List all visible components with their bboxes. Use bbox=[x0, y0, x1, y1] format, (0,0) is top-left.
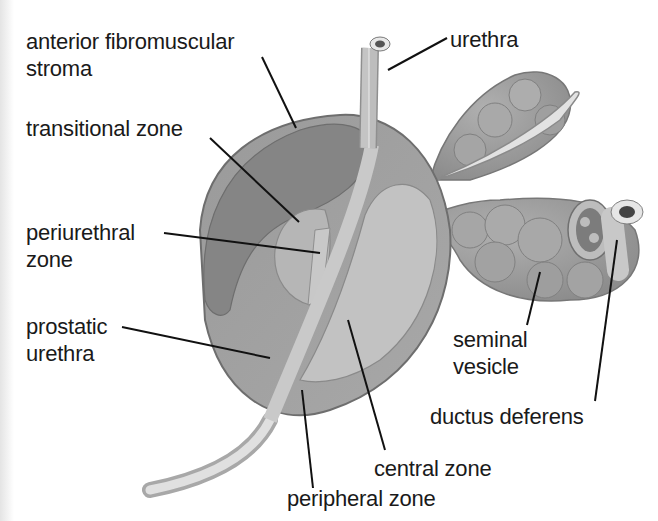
label-line: transitional zone bbox=[26, 115, 183, 142]
label-anterior-fibromuscular-stroma: anterior fibromuscular stroma bbox=[26, 28, 234, 82]
label-line: anterior fibromuscular bbox=[26, 28, 234, 55]
label-seminal-vesicle: seminal vesicle bbox=[453, 326, 527, 380]
label-periurethral-zone: periurethral zone bbox=[26, 219, 135, 273]
label-central-zone: central zone bbox=[374, 455, 491, 482]
prostate-body bbox=[200, 115, 450, 420]
urethra-tail bbox=[150, 420, 270, 490]
label-ductus-deferens: ductus deferens bbox=[430, 403, 584, 430]
label-line: prostatic bbox=[26, 313, 107, 340]
label-line: urethra bbox=[450, 26, 518, 53]
label-prostatic-urethra: prostatic urethra bbox=[26, 313, 107, 367]
leader-urethra bbox=[388, 38, 447, 70]
label-peripheral-zone: peripheral zone bbox=[287, 485, 436, 512]
label-line: vesicle bbox=[453, 353, 527, 380]
prostate-diagram: anterior fibromuscular stroma urethra tr… bbox=[0, 0, 658, 521]
seminal-vesicle-upper bbox=[420, 72, 579, 185]
label-line: stroma bbox=[26, 55, 234, 82]
leader-anterior-fibromuscular-stroma bbox=[262, 57, 296, 128]
label-transitional-zone: transitional zone bbox=[26, 115, 183, 142]
label-line: central zone bbox=[374, 455, 491, 482]
label-line: ductus deferens bbox=[430, 403, 584, 430]
label-line: peripheral zone bbox=[287, 485, 436, 512]
label-urethra: urethra bbox=[450, 26, 518, 53]
label-line: seminal bbox=[453, 326, 527, 353]
label-line: periurethral bbox=[26, 219, 135, 246]
label-line: zone bbox=[26, 246, 135, 273]
label-line: urethra bbox=[26, 340, 107, 367]
